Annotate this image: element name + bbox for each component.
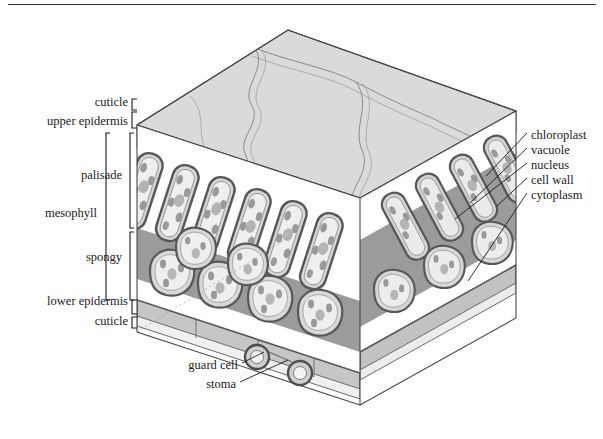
label-palisade: palisade — [18, 169, 122, 182]
label-chloroplast: chloroplast — [531, 129, 587, 142]
guard-cell-pair-left — [245, 345, 269, 369]
bracket-cuticle-upper — [132, 99, 137, 110]
bracket-upper-epidermis — [132, 112, 137, 128]
bracket-cuticle-lower — [132, 317, 137, 328]
spongy-cell — [298, 290, 342, 336]
bracket-spongy — [130, 232, 134, 300]
label-lower-epidermis: lower epidermis — [18, 295, 128, 308]
label-spongy: spongy — [18, 251, 122, 264]
bracket-lower-epidermis — [132, 300, 137, 314]
label-vacuole: vacuole — [531, 144, 570, 157]
label-upper-epidermis: upper epidermis — [18, 115, 128, 128]
spongy-cell — [228, 244, 268, 285]
bracket-mesophyll — [106, 133, 110, 300]
label-cuticle-upper: cuticle — [18, 96, 128, 109]
guard-cell-pair-right — [288, 361, 312, 385]
label-guard-cell: guard cell — [116, 359, 238, 372]
bracket-palisade — [130, 133, 134, 228]
spongy-cell — [176, 228, 216, 269]
spongy-cell — [472, 222, 513, 264]
label-cytoplasm: cytoplasm — [531, 189, 582, 202]
spongy-cell — [374, 270, 415, 312]
label-mesophyll: mesophyll — [8, 207, 97, 220]
spongy-cell — [424, 246, 465, 288]
label-stoma: stoma — [116, 378, 236, 391]
figure-canvas: cuticle upper epidermis palisade mesophy… — [0, 0, 603, 439]
label-cell-wall: cell wall — [531, 174, 574, 187]
label-nucleus: nucleus — [531, 159, 569, 172]
label-cuticle-lower: cuticle — [18, 315, 128, 328]
